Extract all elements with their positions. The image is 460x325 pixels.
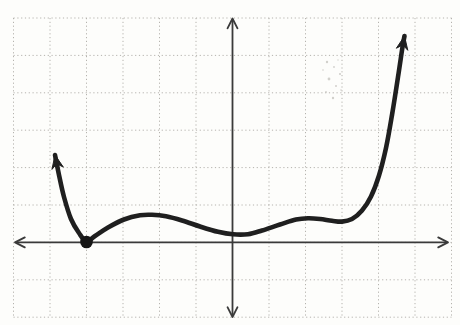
smudge-dot xyxy=(328,78,331,81)
paper-background xyxy=(0,0,460,325)
smudge-dot xyxy=(322,69,324,71)
function-graph-figure xyxy=(0,0,460,325)
smudge-dot xyxy=(339,73,341,75)
smudge-dot xyxy=(335,85,337,87)
smudge-dot xyxy=(325,91,327,93)
smudge-dot xyxy=(340,89,342,91)
smudge-dot xyxy=(333,66,335,68)
tangent-point-dot xyxy=(80,236,93,249)
smudge-dot xyxy=(332,97,334,99)
smudge-dot xyxy=(326,61,328,63)
smudge-dot xyxy=(337,59,338,60)
scanned-graph-page xyxy=(0,0,460,325)
